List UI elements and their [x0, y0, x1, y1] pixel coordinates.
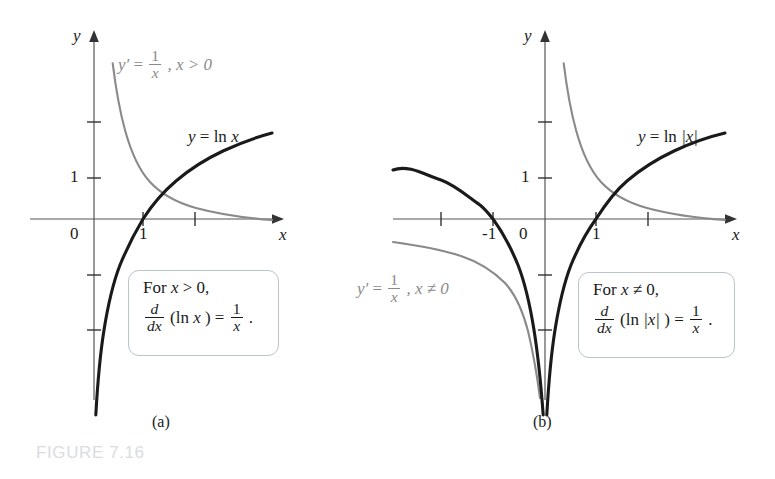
panel-b-recip-lhs: y′	[357, 279, 368, 298]
panel-b-x-axis-label: x	[732, 225, 740, 245]
panel-b-recip-fraction: 1 x	[388, 272, 400, 306]
panel-a-ytick-1: 1	[70, 167, 79, 187]
panel-a-formula-for: For	[143, 278, 167, 297]
panel-b-ln-label: y = ln |x|	[638, 127, 698, 147]
panel-b-formula-line1: For x ≠ 0,	[593, 280, 722, 300]
panel-b-y-axis-label: y	[524, 26, 532, 46]
panel-a-formula-rel: > 0,	[183, 278, 210, 297]
panel-b-deriv-den: dx	[595, 319, 614, 336]
figure-container: x y 0 1 1 y′ = 1 x , x > 0 y = ln x For	[0, 0, 775, 479]
panel-b-formula-rhs-den: x	[690, 319, 702, 336]
panel-b-caption: (b)	[533, 413, 552, 431]
panel-a-formula-body-open: (ln	[170, 307, 189, 326]
panel-b-xtick-minus1: -1	[482, 224, 496, 244]
panel-b-origin-label: 0	[519, 224, 528, 244]
panel-b-formula-equals: =	[674, 309, 684, 328]
panel-b-ln-lhs: y	[638, 127, 646, 146]
panel-b-ln-fn: ln	[664, 127, 677, 146]
panel-b-formula-body-open: (ln	[620, 309, 639, 328]
panel-b-ytick-1: 1	[521, 167, 530, 187]
panel-a-recip-numerator: 1	[149, 48, 161, 64]
panel-a-formula-box: For x > 0, d dx (ln x ) = 1 x .	[128, 270, 279, 356]
panel-b-plot	[385, 0, 775, 440]
panel-a-formula-rhs-num: 1	[231, 301, 243, 317]
panel-a-formula-var: x	[171, 278, 179, 297]
panel-b-formula-rhs-num: 1	[690, 303, 702, 319]
panel-a-caption: (a)	[152, 413, 170, 431]
panel-a-ln-label: y = ln x	[188, 127, 239, 147]
panel-b-xtick-1: 1	[592, 224, 601, 244]
panel-a-formula-period: .	[249, 307, 253, 326]
panel-a-formula-line1: For x > 0,	[143, 278, 266, 298]
panel-b-formula-box: For x ≠ 0, d dx (ln |x| ) = 1 x .	[578, 272, 735, 358]
panel-a-recip-eq: =	[134, 55, 144, 74]
panel-b-formula-body-close: )	[664, 309, 670, 328]
panel-b-formula-for: For	[593, 280, 617, 299]
panel-a-formula-line2: d dx (ln x ) = 1 x .	[143, 301, 266, 335]
panel-a-recip-lhs: y′	[118, 55, 129, 74]
panel-b-recip-condition: , x ≠ 0	[406, 279, 448, 298]
panel-a-derivative-operator: d dx	[145, 301, 164, 335]
panel-a-deriv-den: dx	[145, 317, 164, 334]
panel-b-recip-numerator: 1	[388, 272, 400, 288]
panel-a-formula-rhs-fraction: 1 x	[231, 301, 243, 335]
panel-a-formula-body-var: x	[193, 307, 201, 326]
panel-b-recip-denominator: x	[388, 288, 400, 305]
panel-a-recip-denominator: x	[149, 64, 161, 81]
panel-a-origin-label: 0	[70, 224, 79, 244]
panel-a-deriv-num: d	[145, 301, 164, 317]
panel-a-ln-arg: x	[231, 127, 239, 146]
panel-a-ln-eq: =	[200, 127, 210, 146]
panel-b-formula-rhs-fraction: 1 x	[690, 303, 702, 337]
panel-b-recip-eq: =	[373, 279, 383, 298]
panel-a-ln-fn: ln	[214, 127, 227, 146]
panel-b-formula-rel: ≠ 0,	[633, 280, 659, 299]
panel-b-formula-var: x	[621, 280, 629, 299]
panel-b-formula-line2: d dx (ln |x| ) = 1 x .	[593, 303, 722, 337]
panel-a-xtick-1: 1	[139, 224, 148, 244]
panel-a-ln-lhs: y	[188, 127, 196, 146]
panel-a-formula-body-close: )	[205, 307, 211, 326]
panel-a: x y 0 1 1 y′ = 1 x , x > 0 y = ln x For	[0, 0, 390, 440]
panel-a-y-axis-label: y	[73, 26, 81, 46]
panel-b-ln-arg: |x|	[681, 127, 698, 146]
panel-b-ln-eq: =	[650, 127, 660, 146]
panel-a-recip-condition: , x > 0	[167, 55, 212, 74]
panel-b-reciprocal-label: y′ = 1 x , x ≠ 0	[357, 272, 449, 306]
panel-b-deriv-num: d	[595, 303, 614, 319]
panel-b-formula-period: .	[708, 309, 712, 328]
panel-a-x-axis-label: x	[279, 225, 287, 245]
panel-a-formula-rhs-den: x	[231, 317, 243, 334]
figure-number-label: FIGURE 7.16	[36, 443, 145, 463]
panel-a-recip-fraction: 1 x	[149, 48, 161, 82]
panel-a-reciprocal-label: y′ = 1 x , x > 0	[118, 48, 212, 82]
panel-a-formula-equals: =	[215, 307, 225, 326]
panel-b-derivative-operator: d dx	[595, 303, 614, 337]
panel-b-formula-body-var: |x|	[643, 309, 660, 328]
panel-b: x y 0 -1 1 1 y′ = 1 x , x ≠ 0 y = ln |x|…	[385, 0, 775, 440]
